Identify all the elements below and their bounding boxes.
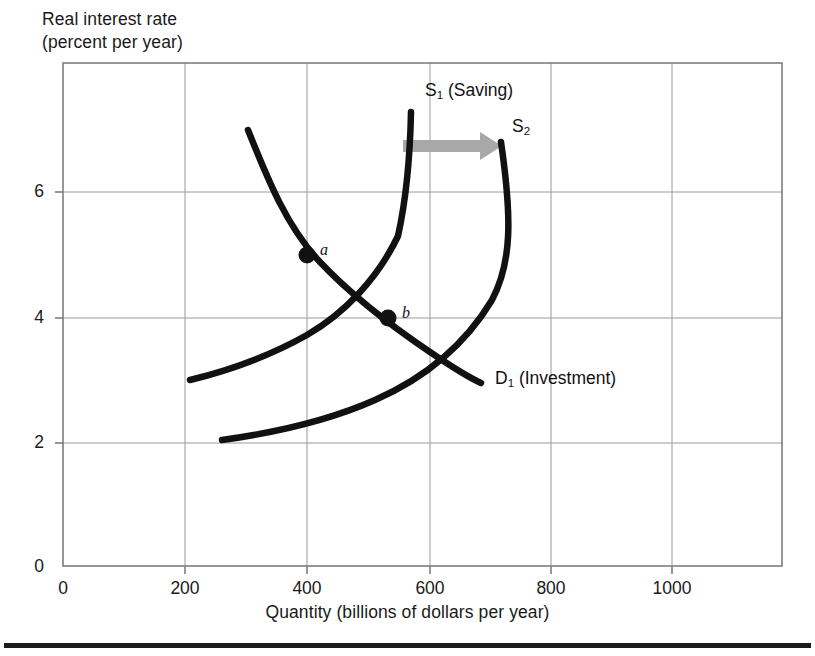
curve-label-d1-suffix: (Investment) (514, 368, 616, 388)
point-label-a: a (320, 241, 328, 259)
equilibrium-point-a (299, 247, 316, 264)
chart-plot-area (0, 0, 815, 656)
curve-label-s1: S1 (Saving) (425, 80, 513, 101)
curve-label-d1-prefix: D (495, 368, 508, 388)
x-tick-label-200: 200 (155, 578, 215, 599)
curve-label-s1-prefix: S (425, 80, 437, 100)
point-label-b: b (402, 304, 410, 322)
equilibrium-point-b (380, 310, 397, 327)
curve-label-s2-prefix: S (512, 116, 524, 136)
x-tick-label-400: 400 (277, 578, 337, 599)
x-tick-label-600: 600 (400, 578, 460, 599)
gridlines (63, 63, 782, 566)
economics-supply-demand-figure: Real interest rate (percent per year) (0, 0, 815, 656)
curve-label-s2-sub: 2 (524, 125, 530, 137)
y-axis-ticks (55, 192, 63, 443)
curve-label-d1-sub: 1 (508, 377, 514, 389)
x-axis-title: Quantity (billions of dollars per year) (0, 602, 815, 623)
curve-label-s1-suffix: (Saving) (443, 80, 513, 100)
shift-arrow-icon (403, 132, 502, 160)
curve-label-s1-sub: 1 (437, 89, 443, 101)
x-tick-label-800: 800 (521, 578, 581, 599)
curve-label-d1: D1 (Investment) (495, 368, 616, 389)
curve-s1-saving (190, 112, 411, 380)
x-tick-label-1000: 1000 (642, 578, 702, 599)
y-tick-label-4: 4 (14, 307, 44, 328)
x-axis-ticks (185, 566, 672, 574)
bottom-divider-rule (4, 643, 811, 648)
y-tick-label-6: 6 (14, 181, 44, 202)
curve-label-s2: S2 (512, 116, 530, 137)
y-tick-label-2: 2 (14, 432, 44, 453)
plot-border (63, 63, 782, 566)
x-tick-label-0: 0 (33, 578, 93, 599)
y-tick-label-0: 0 (14, 556, 44, 577)
